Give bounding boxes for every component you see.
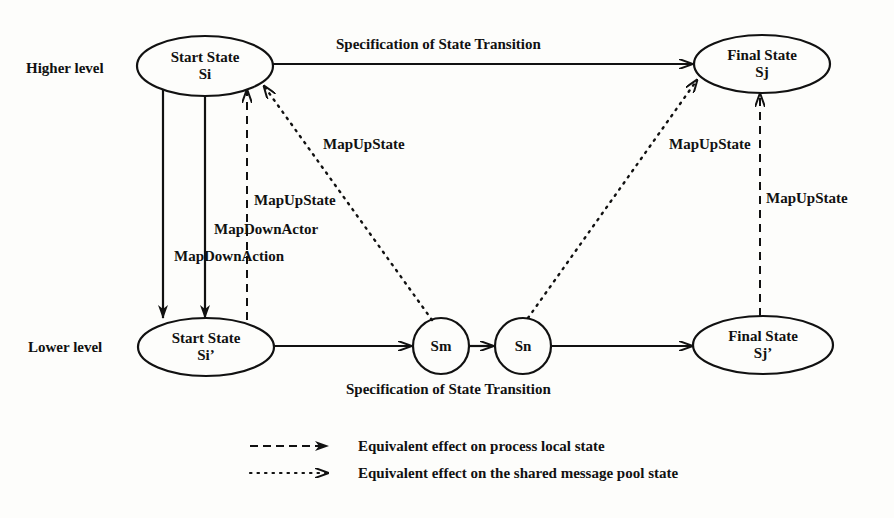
node-sn-text: Sn bbox=[493, 338, 553, 355]
label-bottom-transition: Specification of State Transition bbox=[346, 381, 551, 398]
node-start-state-si-sub: Si bbox=[145, 66, 265, 83]
label-higher-level: Higher level bbox=[26, 60, 104, 77]
state-transition-diagram: Higher level Lower level Start State Si … bbox=[0, 0, 894, 518]
label-map-down-actor: MapDownActor bbox=[214, 221, 318, 238]
label-mapup-dashed-right: MapUpState bbox=[766, 190, 848, 207]
label-lower-level: Lower level bbox=[28, 339, 102, 356]
node-final-state-sj-prime-sub: Sj’ bbox=[703, 345, 823, 362]
label-mapup-dotted-right: MapUpState bbox=[669, 136, 751, 153]
label-mapup-dashed-left: MapUpState bbox=[254, 192, 336, 209]
node-start-state-si-prime-title: Start State bbox=[146, 330, 266, 347]
edge-mapup-dotted-right bbox=[528, 80, 697, 318]
node-final-state-sj-text: Final State Sj bbox=[702, 47, 822, 81]
node-final-state-sj-sub: Sj bbox=[702, 64, 822, 81]
legend-dashed-label: Equivalent effect on process local state bbox=[358, 438, 605, 455]
legend-dotted-label: Equivalent effect on the shared message … bbox=[358, 465, 678, 482]
label-map-down-action: MapDownAction bbox=[174, 248, 284, 265]
node-sm-text: Sm bbox=[411, 338, 471, 355]
label-top-transition: Specification of State Transition bbox=[336, 36, 541, 53]
node-start-state-si-text: Start State Si bbox=[145, 49, 265, 83]
node-start-state-si-prime-text: Start State Si’ bbox=[146, 330, 266, 364]
node-start-state-si-title: Start State bbox=[145, 49, 265, 66]
label-mapup-dotted-left: MapUpState bbox=[323, 136, 405, 153]
node-final-state-sj-prime-text: Final State Sj’ bbox=[703, 328, 823, 362]
node-final-state-sj-prime-title: Final State bbox=[703, 328, 823, 345]
node-final-state-sj-title: Final State bbox=[702, 47, 822, 64]
node-start-state-si-prime-sub: Si’ bbox=[146, 347, 266, 364]
